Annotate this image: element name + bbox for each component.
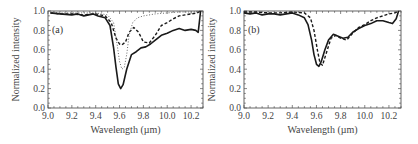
y-tick-label: 0.0 — [229, 103, 241, 113]
panel-b: 9.09.29.49.69.810.010.20.00.20.40.60.81.… — [196, 0, 405, 144]
x-tick-label: 9.6 — [311, 111, 323, 121]
y-tick-label: 0.8 — [33, 26, 45, 36]
panel-a: 9.09.29.49.69.810.010.20.00.20.40.60.81.… — [0, 0, 209, 144]
plot-frame — [48, 11, 203, 108]
x-axis-title: Wavelength (µm) — [90, 124, 160, 136]
y-tick-label: 0.4 — [229, 65, 241, 75]
y-tick-label: 0.6 — [229, 45, 241, 55]
y-tick-label: 0.2 — [229, 84, 241, 94]
x-tick-label: 9.2 — [66, 111, 78, 121]
series-solid — [244, 11, 399, 66]
y-tick-label: 0.8 — [229, 26, 241, 36]
chart-b: 9.09.29.49.69.810.010.20.00.20.40.60.81.… — [196, 0, 418, 144]
y-tick-label: 1.0 — [229, 6, 241, 16]
y-tick-label: 0.6 — [33, 45, 45, 55]
panel-label: (b) — [248, 24, 260, 36]
series-dashed — [50, 11, 200, 45]
x-axis-title: Wavelength (µm) — [287, 124, 357, 136]
y-tick-label: 0.2 — [33, 84, 45, 94]
x-tick-label: 9.4 — [286, 111, 298, 121]
x-tick-label: 9.4 — [90, 111, 102, 121]
y-axis-title: Normalized intensity — [10, 17, 21, 101]
series-solid — [50, 11, 200, 89]
ticks — [48, 11, 203, 108]
series-dashed — [244, 11, 399, 65]
chart-a: 9.09.29.49.69.810.010.20.00.20.40.60.81.… — [0, 0, 209, 144]
x-tick-label: 9.8 — [335, 111, 347, 121]
y-axis-title: Normalized intensity — [206, 17, 217, 101]
x-tick-label: 9.2 — [262, 111, 274, 121]
y-tick-label: 0.4 — [33, 65, 45, 75]
x-tick-label: 9.6 — [114, 111, 126, 121]
panel-label: (a) — [52, 24, 63, 36]
x-tick-label: 9.8 — [137, 111, 149, 121]
x-tick-label: 10.0 — [356, 111, 373, 121]
x-tick-label: 10.2 — [381, 111, 398, 121]
y-tick-label: 1.0 — [33, 6, 45, 16]
y-tick-label: 0.0 — [33, 103, 45, 113]
x-tick-label: 10.0 — [159, 111, 176, 121]
